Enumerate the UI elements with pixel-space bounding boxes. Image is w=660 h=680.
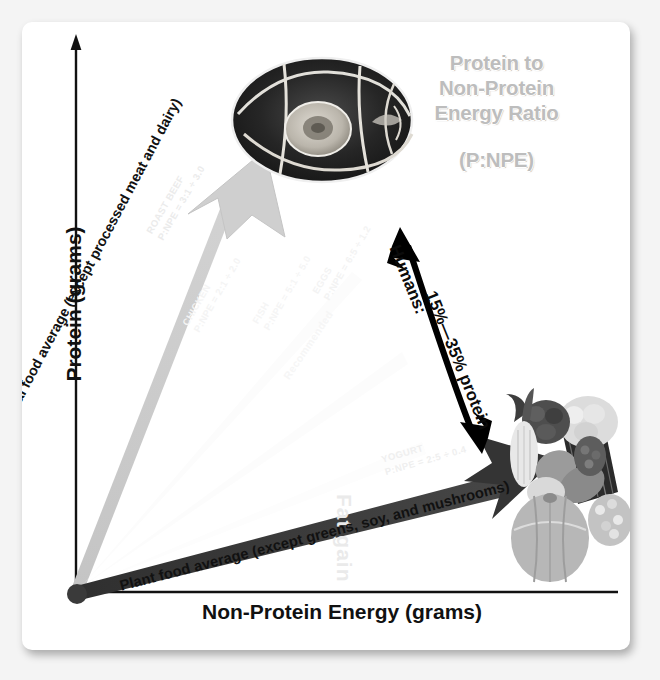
chart-title-line2: Non-Protein [389, 75, 604, 100]
screenshot-root: ROAST BEEF P:NPE = 3:1 ÷ 3.0 EGGS P:NPE … [0, 0, 660, 680]
humans-range-label-part1: Humans: [385, 242, 431, 317]
chart-title: Protein to Non-Protein Energy Ratio (P:N… [389, 50, 604, 172]
x-axis-label: Non-Protein Energy (grams) [142, 600, 542, 624]
chart-subtitle: (P:NPE) [389, 147, 604, 172]
y-axis-label: Protein (grams) [62, 174, 86, 434]
infographic-card: ROAST BEEF P:NPE = 3:1 ÷ 3.0 EGGS P:NPE … [22, 22, 630, 650]
chart-title-line3: Energy Ratio [389, 100, 604, 125]
humans-range-label-part2: 15%—35% protein [421, 288, 495, 432]
humans-range-label: Humans: 15%—35% protein [388, 218, 630, 418]
roast-beef-photo [232, 58, 412, 182]
chart-title-line1: Protein to [389, 50, 604, 75]
